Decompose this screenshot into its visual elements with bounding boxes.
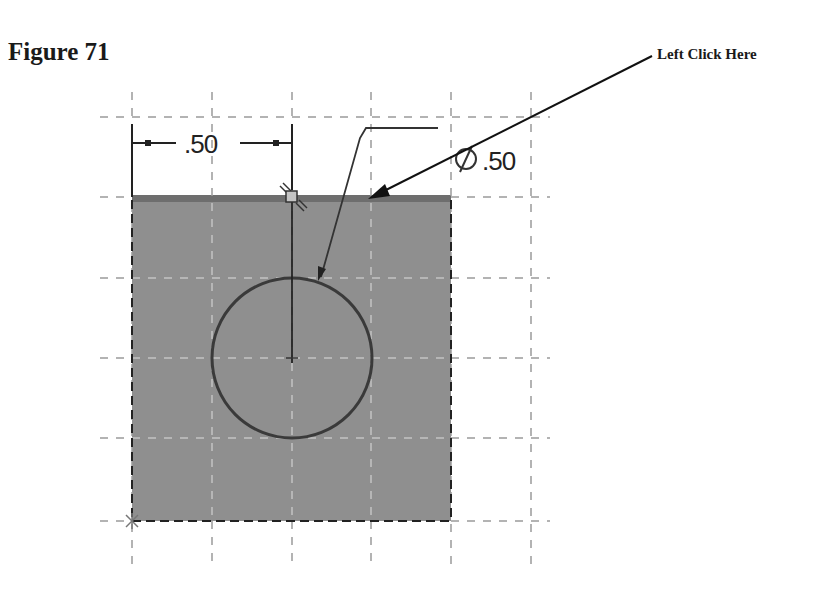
linear-dimension-value: .50 bbox=[184, 129, 218, 159]
sketch-canvas: .50 .50 bbox=[0, 0, 828, 594]
diameter-dimension-value: .50 bbox=[482, 146, 516, 176]
